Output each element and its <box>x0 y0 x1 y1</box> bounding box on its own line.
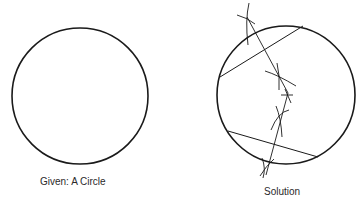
solution-caption: Solution <box>264 186 300 197</box>
arc-marks-lower-mid <box>271 106 289 137</box>
arc-marks-upper-mid <box>265 63 296 90</box>
chord-lower <box>228 131 318 157</box>
given-circle <box>12 28 148 164</box>
given-caption: Given: A Circle <box>40 176 106 187</box>
diagram-canvas <box>0 0 358 204</box>
